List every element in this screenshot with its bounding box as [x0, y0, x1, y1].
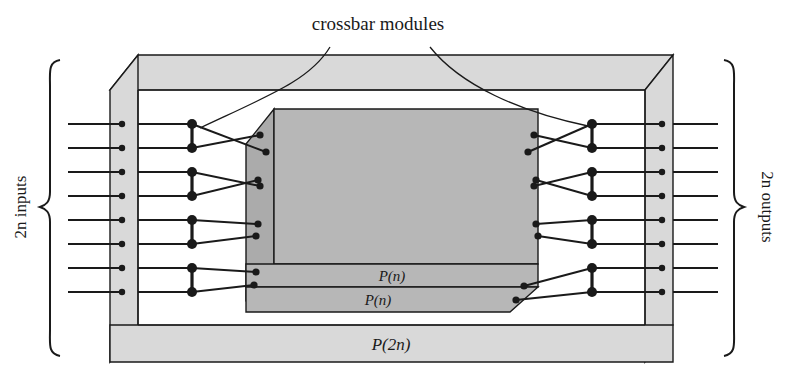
right-wall-port-5 — [659, 217, 665, 223]
left-input-group — [68, 124, 266, 292]
left-module-node-7 — [187, 263, 197, 273]
outer-band-label: P(2n) — [371, 335, 411, 354]
right-module-node-6 — [587, 239, 597, 249]
inner-left-port-8 — [250, 281, 257, 288]
right-output-group — [516, 124, 718, 300]
left-module-node-8 — [187, 287, 197, 297]
inner-left-port-2 — [256, 131, 263, 138]
crossbar-network-diagram: crossbar modules 2n inputs 2n outputs P(… — [0, 0, 785, 381]
figure-canvas: crossbar modules 2n inputs 2n outputs P(… — [0, 0, 785, 381]
left-wall-port-4 — [119, 193, 125, 199]
inner-left-port-7 — [252, 268, 259, 275]
right-wall-port-7 — [659, 265, 665, 271]
right-module-node-5 — [587, 215, 597, 225]
right-cross-2a — [534, 172, 592, 186]
right-module-node-3 — [587, 167, 597, 177]
right-crossbar-module-nodes — [587, 119, 597, 297]
left-cross-4b — [192, 285, 254, 292]
right-cross-3b — [538, 236, 592, 244]
right-wall-port-6 — [659, 241, 665, 247]
inner-upper-band-label: P(n) — [378, 268, 406, 285]
outer-box-top-face — [110, 55, 673, 90]
inner-right-port-6 — [534, 232, 541, 239]
right-module-node-7 — [587, 263, 597, 273]
inner-left-port-5 — [254, 220, 261, 227]
outer-box-right-wall — [645, 55, 673, 362]
left-wall-port-8 — [119, 289, 125, 295]
left-module-node-5 — [187, 215, 197, 225]
inputs-label: 2n inputs — [11, 176, 30, 239]
left-wall-port-6 — [119, 241, 125, 247]
outer-box-left-wall — [110, 55, 138, 362]
left-module-node-6 — [187, 239, 197, 249]
right-wall-port-2 — [659, 145, 665, 151]
right-module-node-2 — [587, 143, 597, 153]
diagram-title: crossbar modules — [312, 13, 444, 34]
inner-box-front-face — [274, 109, 538, 264]
right-cross-3a — [536, 220, 592, 224]
inner-left-port-6 — [252, 232, 259, 239]
output-brace — [724, 60, 744, 356]
right-module-node-4 — [587, 191, 597, 201]
left-module-node-3 — [187, 167, 197, 177]
inner-left-port-4 — [254, 176, 261, 183]
inner-right-port-4 — [532, 176, 539, 183]
right-wall-port-3 — [659, 169, 665, 175]
inner-lower-band-label: P(n) — [364, 292, 392, 309]
right-module-node-1 — [587, 119, 597, 129]
inner-right-port-2 — [530, 131, 537, 138]
right-module-node-8 — [587, 287, 597, 297]
inner-right-port-1 — [524, 148, 531, 155]
left-wall-port-7 — [119, 265, 125, 271]
input-brace — [40, 60, 60, 356]
left-wall-port-3 — [119, 169, 125, 175]
left-module-node-2 — [187, 143, 197, 153]
left-module-node-1 — [187, 119, 197, 129]
right-cross-2b — [536, 180, 592, 196]
left-wall-port-1 — [119, 121, 125, 127]
right-wall-port-1 — [659, 121, 665, 127]
inner-right-port-7 — [520, 282, 527, 289]
right-wall-port-8 — [659, 289, 665, 295]
right-wall-port-4 — [659, 193, 665, 199]
inner-right-port-8 — [512, 296, 519, 303]
inner-box-band-lower — [246, 287, 538, 312]
left-crossbar-module-nodes — [187, 119, 197, 297]
left-wall-port-2 — [119, 145, 125, 151]
inner-right-port-5 — [532, 220, 539, 227]
left-wall-port-5 — [119, 217, 125, 223]
left-module-node-4 — [187, 191, 197, 201]
inner-left-port-1 — [262, 148, 269, 155]
outputs-label: 2n outputs — [758, 171, 777, 242]
